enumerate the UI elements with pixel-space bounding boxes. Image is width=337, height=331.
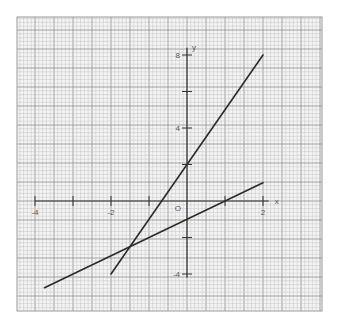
y-tick-label: 4 <box>176 124 181 133</box>
x-axis-label: x <box>275 197 279 206</box>
x-tick-label: -2 <box>107 208 115 217</box>
x-tick-label: 2 <box>261 208 266 217</box>
graph-paper-chart: -4-2284-4Oxy <box>0 0 337 331</box>
graph-paper-background <box>17 17 322 311</box>
y-tick-label: -4 <box>173 270 181 279</box>
y-axis-label: y <box>192 43 196 52</box>
x-tick-label: -4 <box>31 208 39 217</box>
y-tick-label: 8 <box>176 51 181 60</box>
origin-label: O <box>175 204 181 213</box>
